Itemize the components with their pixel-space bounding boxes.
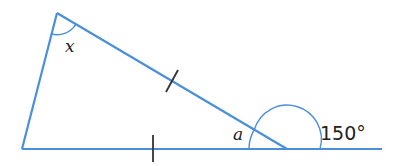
angle-label-150: 150° (320, 122, 366, 144)
angle-arc-150 (254, 105, 321, 149)
angle-label-x: x (65, 36, 75, 56)
angle-arc-a (249, 130, 254, 149)
triangle-diagram: x a 150° (0, 0, 399, 166)
angle-arc-x (52, 24, 76, 35)
tick-mark-slanted-side (166, 70, 178, 92)
side-left (22, 13, 57, 149)
angle-label-a: a (233, 124, 243, 144)
